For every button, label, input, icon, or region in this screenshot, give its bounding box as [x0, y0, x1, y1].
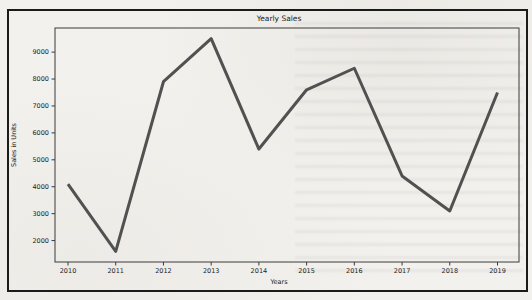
x-tick-label: 2010 [60, 267, 77, 275]
y-tick-label: 8000 [32, 75, 49, 83]
x-axis-label: Years [269, 278, 288, 286]
y-tick-label: 6000 [32, 129, 49, 137]
x-axis-ticks: 2010201120122013201420152016201720182019 [60, 262, 506, 275]
y-tick-label: 2000 [32, 237, 49, 245]
y-axis-label: Sales in Units [10, 122, 18, 167]
x-tick-label: 2015 [298, 267, 315, 275]
y-tick-label: 3000 [32, 210, 49, 218]
scanned-chart-page: Yearly Sales Years Sales in Units 200030… [0, 0, 532, 300]
x-tick-label: 2016 [346, 267, 363, 275]
y-tick-label: 4000 [32, 183, 49, 191]
x-tick-label: 2017 [394, 267, 411, 275]
y-tick-label: 9000 [32, 48, 49, 56]
chart-title: Yearly Sales [256, 14, 302, 23]
y-tick-label: 7000 [32, 102, 49, 110]
x-tick-label: 2013 [203, 267, 220, 275]
x-tick-label: 2011 [107, 267, 124, 275]
sales-line-series [68, 39, 498, 252]
x-tick-label: 2012 [155, 267, 172, 275]
y-tick-label: 5000 [32, 156, 49, 164]
x-tick-label: 2019 [489, 267, 506, 275]
x-tick-label: 2018 [442, 267, 459, 275]
plot-area [55, 28, 519, 262]
y-axis-ticks: 20003000400050006000700080009000 [32, 48, 55, 244]
x-tick-label: 2014 [251, 267, 268, 275]
line-chart: Yearly Sales Years Sales in Units 200030… [0, 0, 532, 300]
